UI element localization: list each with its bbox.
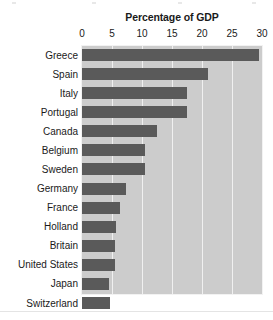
bar-belgium [82,144,145,156]
bar-switzerland [82,297,110,309]
bar-britain [82,240,115,252]
category-label-sweden: Sweden [42,165,78,175]
category-label-italy: Italy [60,89,78,99]
bar-row [82,84,262,103]
x-axis-tick-5: 5 [100,28,124,39]
x-axis-tick-30: 30 [250,28,273,39]
category-label-united-states: United States [18,260,78,270]
bar-row [82,237,262,256]
category-row: Holland [0,218,78,237]
bar-row [82,180,262,199]
scan-artifact-mark [92,2,96,4]
category-row: Portugal [0,103,78,122]
category-row: Germany [0,180,78,199]
bar-row [82,218,262,237]
bar-row [82,103,262,122]
category-row: Belgium [0,141,78,160]
scan-artifact-mark [252,2,256,4]
category-label-switzerland: Switzerland [26,299,78,309]
bar-chart-figure: Percentage of GDP 051015202530 GreeceSpa… [0,0,273,320]
category-axis-labels: GreeceSpainItalyPortugalCanadaBelgiumSwe… [0,46,78,294]
x-axis-tick-25: 25 [220,28,244,39]
category-row: Britain [0,237,78,256]
category-label-spain: Spain [52,70,78,80]
bar-greece [82,49,259,61]
category-label-portugal: Portugal [41,108,78,118]
category-label-germany: Germany [37,184,78,194]
category-row: Sweden [0,160,78,179]
category-label-britain: Britain [50,241,78,251]
bars-layer [82,46,262,294]
category-label-canada: Canada [43,127,78,137]
bar-france [82,202,120,214]
bar-sweden [82,163,145,175]
bar-germany [82,183,126,195]
category-row: United States [0,256,78,275]
x-axis-tick-10: 10 [130,28,154,39]
category-row: France [0,199,78,218]
bar-portugal [82,106,187,118]
bar-row [82,275,262,294]
bottom-rule [0,311,273,312]
category-label-greece: Greece [45,51,78,61]
bar-canada [82,125,157,137]
category-row: Greece [0,46,78,65]
bar-row [82,122,262,141]
scan-artifact-mark [178,2,182,4]
category-row: Spain [0,65,78,84]
category-row: Italy [0,84,78,103]
category-label-belgium: Belgium [42,146,78,156]
chart-title: Percentage of GDP [82,11,262,23]
x-axis-tick-15: 15 [160,28,184,39]
bar-row [82,199,262,218]
category-label-france: France [47,203,78,213]
bar-row [82,46,262,65]
bar-row [82,160,262,179]
bar-spain [82,68,208,80]
category-row: Canada [0,122,78,141]
bar-italy [82,87,187,99]
category-label-holland: Holland [44,222,78,232]
x-axis-tick-0: 0 [70,28,94,39]
bar-japan [82,278,109,290]
category-row: Japan [0,275,78,294]
bar-row [82,65,262,84]
bar-united-states [82,259,115,271]
bar-row [82,141,262,160]
x-axis-tick-labels: 051015202530 [0,28,273,42]
scan-artifact-mark [12,2,16,4]
category-label-japan: Japan [51,279,78,289]
x-axis-tick-20: 20 [190,28,214,39]
bar-row [82,256,262,275]
bar-holland [82,221,116,233]
